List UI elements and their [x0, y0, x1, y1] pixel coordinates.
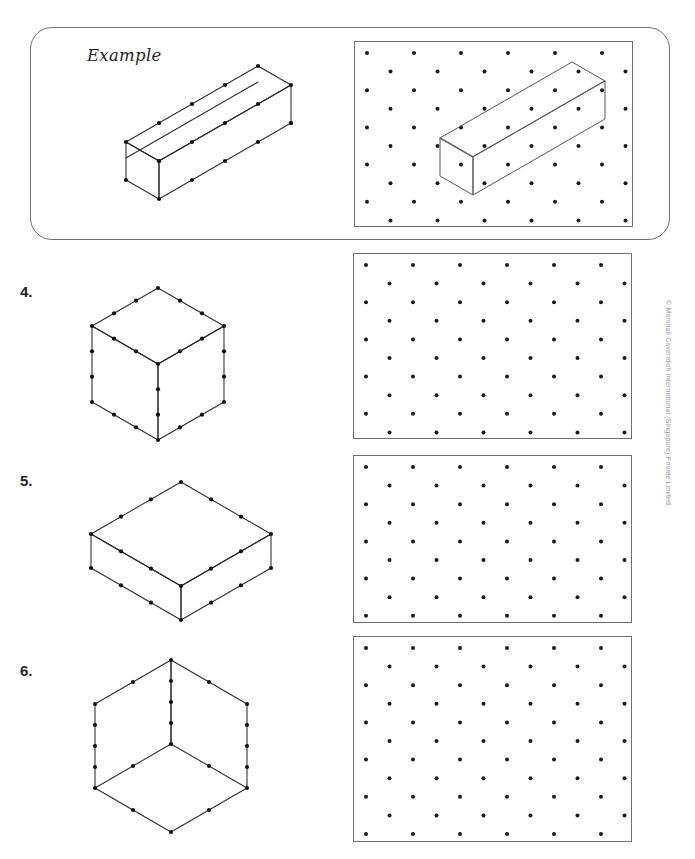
copyright-notice: © Marshall Cavendish International (Sing…	[665, 300, 672, 520]
question-5-dot-grid	[353, 455, 632, 623]
example-label: Example	[87, 46, 162, 65]
page-top-artifact	[230, 0, 430, 5]
question-6-figure	[80, 650, 280, 859]
question-4-dot-grid	[353, 253, 632, 439]
question-4-figure	[70, 250, 300, 440]
question-number-4: 4.	[20, 283, 33, 300]
question-number-6: 6.	[20, 662, 33, 679]
example-label-container: Example	[79, 44, 170, 66]
question-6-dot-grid	[353, 636, 632, 842]
question-5-figure	[75, 470, 315, 620]
worksheet-page: Example	[0, 0, 695, 859]
question-number-5: 5.	[20, 472, 33, 489]
example-panel: Example	[30, 27, 670, 240]
example-figure-cuboid	[86, 68, 316, 203]
example-dot-grid	[354, 41, 633, 227]
